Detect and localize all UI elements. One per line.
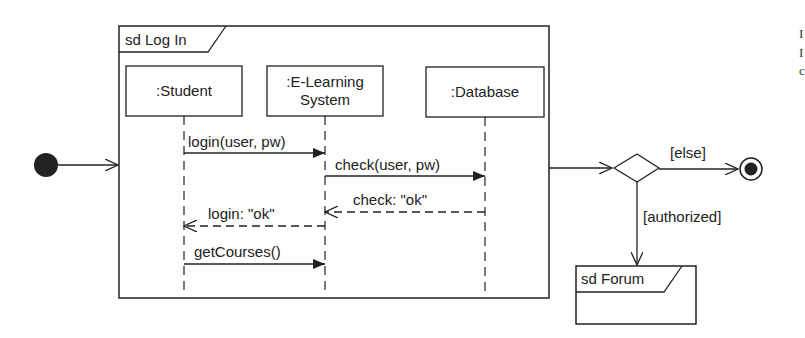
lifeline-elearning-label-line2: System: [300, 91, 350, 108]
reply-login-label: login: "ok": [208, 205, 275, 222]
guard-else: [else]: [670, 144, 706, 161]
lifeline-database-label: :Database: [451, 83, 519, 100]
initial-node-icon: [34, 153, 58, 177]
message-getcourses-label: getCourses(): [194, 243, 281, 260]
guard-authorized: [authorized]: [643, 208, 721, 225]
message-check-label: check(user, pw): [335, 156, 440, 173]
login-frame-label: sd Log In: [125, 31, 187, 48]
edge-text-fragment: I: [799, 45, 803, 61]
forum-frame-label: sd Forum: [581, 270, 644, 287]
final-node-icon: [740, 158, 762, 180]
edge-text-fragment: I: [799, 26, 803, 42]
message-login-label: login(user, pw): [188, 133, 286, 150]
reply-check-label: check: "ok": [353, 191, 427, 208]
lifeline-elearning-label-line1: :E-Learning: [286, 73, 364, 90]
lifeline-student-label: :Student: [156, 82, 213, 99]
edge-text-fragment: c: [799, 63, 805, 79]
decision-node-icon: [614, 154, 659, 182]
